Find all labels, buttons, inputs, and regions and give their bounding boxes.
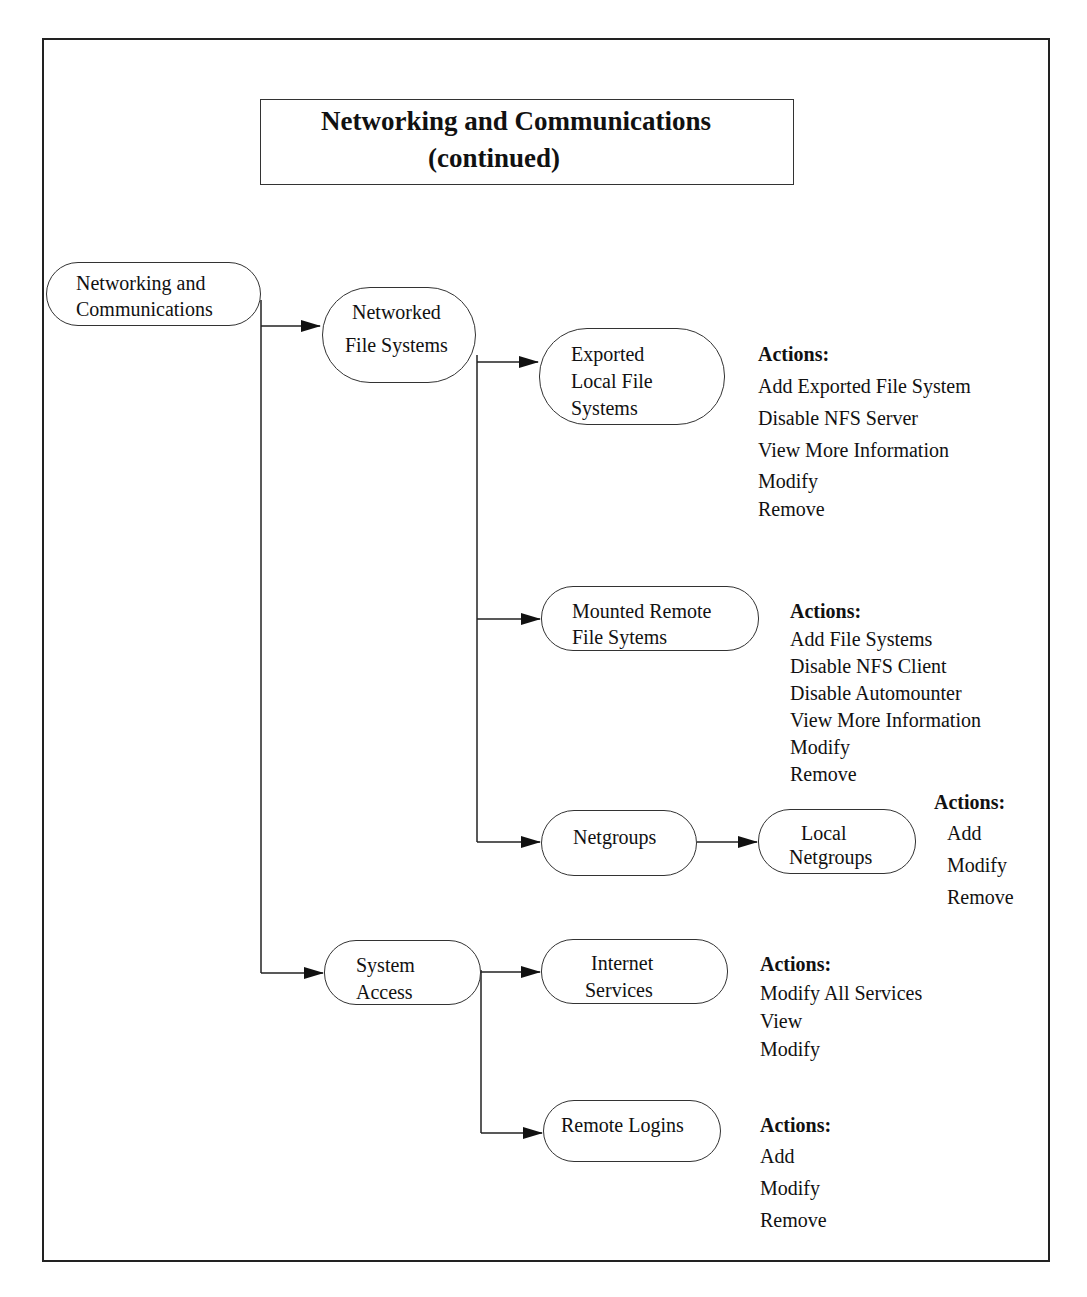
action-add-file-systems[interactable]: Add File Systems	[790, 626, 981, 653]
action-add-exported-file-system[interactable]: Add Exported File System	[758, 370, 971, 402]
action-view-more-information[interactable]: View More Information	[790, 707, 981, 734]
node-label: Systems	[571, 395, 638, 421]
node-label: Communications	[76, 296, 213, 322]
node-label: File Systems	[345, 332, 448, 358]
action-disable-nfs-client[interactable]: Disable NFS Client	[790, 653, 981, 680]
node-system-access[interactable]: System Access	[324, 940, 481, 1005]
node-label: Local	[801, 820, 847, 846]
actions-remote-logins: Actions: Add Modify Remove	[760, 1110, 831, 1236]
action-disable-nfs-server[interactable]: Disable NFS Server	[758, 402, 971, 434]
actions-header: Actions:	[934, 787, 1014, 817]
actions-header: Actions:	[758, 338, 971, 370]
action-modify[interactable]: Modify	[760, 1172, 831, 1204]
action-remove[interactable]: Remove	[760, 1204, 831, 1236]
node-label: Netgroups	[789, 844, 872, 870]
action-modify[interactable]: Modify	[758, 466, 971, 496]
action-modify[interactable]: Modify	[760, 1035, 922, 1063]
node-label: Networking and	[76, 270, 205, 296]
actions-local-netgroups: Actions: Add Modify Remove	[934, 787, 1014, 913]
node-label: File Sytems	[572, 624, 667, 650]
node-exported-local-file-systems[interactable]: Exported Local File Systems	[539, 328, 725, 425]
action-remove[interactable]: Remove	[790, 761, 981, 788]
action-view-more-information[interactable]: View More Information	[758, 434, 971, 466]
actions-mounted-fs: Actions: Add File Systems Disable NFS Cl…	[790, 596, 981, 788]
node-networking-and-communications[interactable]: Networking and Communications	[46, 262, 261, 326]
node-label: Networked	[352, 299, 441, 325]
node-label: Access	[356, 979, 413, 1005]
action-remove[interactable]: Remove	[934, 881, 1014, 913]
node-netgroups[interactable]: Netgroups	[541, 810, 697, 876]
node-label: Exported	[571, 341, 644, 367]
node-label: Local File	[571, 368, 653, 394]
node-mounted-remote-file-systems[interactable]: Mounted Remote File Sytems	[541, 586, 759, 651]
actions-header: Actions:	[790, 596, 981, 626]
node-networked-file-systems[interactable]: Networked File Systems	[322, 287, 476, 383]
node-label: Mounted Remote	[572, 598, 711, 624]
node-label: Internet	[591, 950, 653, 976]
action-remove[interactable]: Remove	[758, 496, 971, 522]
node-label: Services	[585, 977, 653, 1003]
action-disable-automounter[interactable]: Disable Automounter	[790, 680, 981, 707]
action-view[interactable]: View	[760, 1007, 922, 1035]
action-modify-all-services[interactable]: Modify All Services	[760, 979, 922, 1007]
action-add[interactable]: Add	[934, 817, 1014, 849]
node-label: Remote Logins	[561, 1112, 684, 1138]
action-add[interactable]: Add	[760, 1140, 831, 1172]
action-modify[interactable]: Modify	[790, 734, 981, 761]
actions-header: Actions:	[760, 949, 922, 979]
action-modify[interactable]: Modify	[934, 849, 1014, 881]
node-internet-services[interactable]: Internet Services	[541, 939, 728, 1004]
node-label: System	[356, 952, 415, 978]
actions-header: Actions:	[760, 1110, 831, 1140]
actions-exported-fs: Actions: Add Exported File System Disabl…	[758, 338, 971, 522]
node-local-netgroups[interactable]: Local Netgroups	[758, 809, 916, 874]
node-label: Netgroups	[573, 824, 656, 850]
actions-internet-services: Actions: Modify All Services View Modify	[760, 949, 922, 1063]
node-remote-logins[interactable]: Remote Logins	[543, 1100, 721, 1162]
